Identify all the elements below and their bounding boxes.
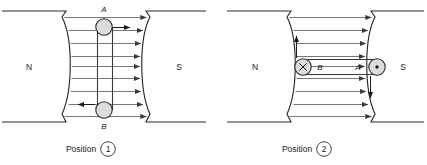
conductor-a-label-2: A — [354, 63, 360, 72]
conductor-b-2: B — [295, 36, 324, 75]
magnet-coil-figure: A B N S Position 1 — [0, 0, 427, 165]
conductor-a-label-1: A — [100, 5, 106, 14]
pole-label-north-2: N — [252, 62, 258, 72]
pole-label-south-2: S — [400, 62, 406, 72]
conductor-b-label-1: B — [101, 122, 107, 131]
caption-label-2: Position — [282, 144, 313, 154]
pole-label-north-1: N — [26, 62, 32, 72]
caption-number-1: 1 — [106, 144, 111, 154]
caption-label-1: Position — [66, 144, 97, 154]
coil-rails-2 — [303, 60, 377, 75]
caption-position-2: Position 2 — [282, 142, 331, 157]
south-pole-piece-1 — [142, 11, 206, 122]
north-pole-piece-2 — [227, 11, 295, 122]
panel-position-2: B A N S Position 2 — [227, 11, 424, 156]
panel-position-1: A B N S Position 1 — [2, 5, 206, 156]
caption-position-1: Position 1 — [66, 142, 115, 157]
caption-number-2: 2 — [322, 144, 327, 154]
conductor-b-label-2: B — [317, 63, 323, 72]
north-pole-piece-1 — [2, 11, 70, 122]
pole-label-south-1: S — [176, 62, 182, 72]
coil-rails-1 — [98, 27, 113, 110]
